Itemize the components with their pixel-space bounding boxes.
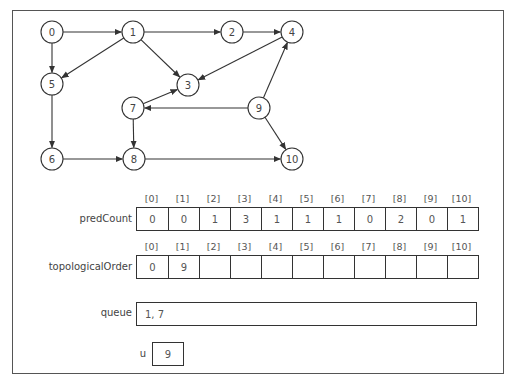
array-cell	[385, 256, 416, 278]
index-label: [3]	[229, 241, 260, 252]
edge-9-to-4	[263, 43, 287, 98]
directed-graph: 012453796810	[0, 0, 516, 200]
node-label: 6	[49, 154, 55, 165]
graph-node-10: 10	[281, 148, 303, 170]
array-cell	[261, 256, 292, 278]
queue-box: 1, 7	[136, 302, 477, 326]
node-label: 10	[286, 154, 299, 165]
index-label: [7]	[353, 241, 384, 252]
index-label: [3]	[229, 193, 260, 204]
array-cell: 1	[323, 208, 354, 230]
index-label: [8]	[384, 241, 415, 252]
graph-edges	[52, 32, 287, 159]
node-label: 5	[49, 79, 55, 90]
edge-7-to-8	[133, 119, 134, 148]
u-box: 9	[152, 342, 184, 366]
array-cell	[354, 256, 385, 278]
u-value: 9	[165, 349, 171, 360]
index-label: [10]	[446, 241, 477, 252]
graph-node-2: 2	[221, 21, 243, 43]
array-cell: 0	[137, 256, 168, 278]
array-cell: 1	[292, 208, 323, 230]
array-cell	[416, 256, 447, 278]
array-cell: 0	[416, 208, 447, 230]
topological-order-label: topologicalOrder	[49, 261, 132, 272]
graph-node-0: 0	[41, 21, 63, 43]
index-label: [4]	[260, 241, 291, 252]
u-label: u	[140, 348, 146, 359]
array-cell: 1	[261, 208, 292, 230]
array-cell: 2	[385, 208, 416, 230]
topological-order-indices: [0] [1] [2] [3] [4] [5] [6] [7] [8] [9] …	[136, 241, 477, 252]
array-cell: 1	[199, 208, 230, 230]
index-label: [2]	[198, 193, 229, 204]
array-cell	[230, 256, 261, 278]
queue-label: queue	[101, 307, 132, 318]
node-label: 3	[185, 80, 191, 91]
node-label: 2	[229, 27, 235, 38]
node-label: 1	[130, 27, 136, 38]
graph-node-5: 5	[41, 73, 63, 95]
edge-9-to-10	[265, 117, 286, 149]
array-cell	[323, 256, 354, 278]
predcount-indices: [0] [1] [2] [3] [4] [5] [6] [7] [8] [9] …	[136, 193, 477, 204]
array-cell: 0	[168, 208, 199, 230]
index-label: [2]	[198, 241, 229, 252]
predcount-array: 0 0 1 3 1 1 1 0 2 0 1	[136, 207, 479, 231]
edge-1-to-3	[141, 40, 180, 77]
index-label: [6]	[322, 193, 353, 204]
index-label: [10]	[446, 193, 477, 204]
node-label: 8	[131, 154, 137, 165]
graph-node-6: 6	[41, 148, 63, 170]
array-cell: 1	[447, 208, 478, 230]
node-label: 4	[289, 27, 295, 38]
index-label: [7]	[353, 193, 384, 204]
array-cell: 3	[230, 208, 261, 230]
array-cell: 9	[168, 256, 199, 278]
graph-node-4: 4	[281, 21, 303, 43]
array-cell	[447, 256, 478, 278]
node-label: 7	[130, 103, 136, 114]
index-label: [0]	[136, 241, 167, 252]
edge-7-to-3	[143, 89, 177, 103]
graph-node-1: 1	[122, 21, 144, 43]
index-label: [8]	[384, 193, 415, 204]
index-label: [4]	[260, 193, 291, 204]
queue-value: 1, 7	[145, 309, 164, 320]
array-cell: 0	[354, 208, 385, 230]
array-cell	[292, 256, 323, 278]
graph-node-7: 7	[122, 97, 144, 119]
index-label: [9]	[415, 193, 446, 204]
array-cell: 0	[137, 208, 168, 230]
index-label: [5]	[291, 241, 322, 252]
edge-4-to-3	[198, 37, 282, 80]
predcount-label: predCount	[80, 213, 132, 224]
graph-node-8: 8	[123, 148, 145, 170]
index-label: [1]	[167, 241, 198, 252]
topological-order-array: 0 9	[136, 255, 479, 279]
index-label: [6]	[322, 241, 353, 252]
graph-node-3: 3	[177, 74, 199, 96]
index-label: [1]	[167, 193, 198, 204]
array-cell	[199, 256, 230, 278]
graph-nodes: 012453796810	[41, 21, 303, 170]
node-label: 9	[256, 103, 262, 114]
edge-1-to-5	[62, 38, 124, 78]
node-label: 0	[49, 27, 55, 38]
index-label: [5]	[291, 193, 322, 204]
index-label: [0]	[136, 193, 167, 204]
index-label: [9]	[415, 241, 446, 252]
graph-node-9: 9	[248, 97, 270, 119]
